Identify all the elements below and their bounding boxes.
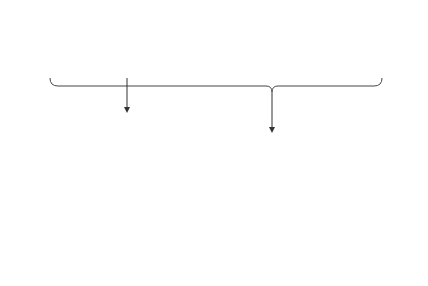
lymphocyte-diagram [0,0,428,286]
grouping-brace [50,78,382,92]
